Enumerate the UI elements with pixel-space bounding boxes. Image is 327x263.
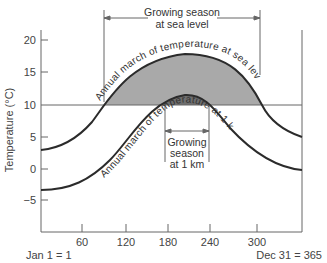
ytick-15: 15	[24, 66, 36, 78]
xtick-300: 300	[248, 236, 266, 248]
growing-season-sea-label-2: at sea level	[155, 18, 208, 30]
xtick-180: 180	[159, 236, 177, 248]
x-end-label: Dec 31 = 365	[256, 249, 322, 261]
ytick-neg5: −5	[23, 194, 36, 206]
xtick-120: 120	[117, 236, 135, 248]
ytick-20: 20	[24, 34, 36, 46]
xtick-60: 60	[76, 236, 88, 248]
growing-season-km-label-3: at 1 km	[170, 158, 205, 170]
xtick-240: 240	[201, 236, 219, 248]
y-axis-label: Temperature (°C)	[3, 88, 15, 172]
ytick-0: 0	[30, 163, 36, 175]
ytick-5: 5	[30, 131, 36, 143]
y-ticks	[41, 40, 48, 200]
x-ticks	[82, 224, 257, 232]
temperature-chart: Annual march of temperature at sea level…	[0, 0, 327, 263]
growing-season-sea-label-1: Growing season	[144, 6, 220, 18]
x-start-label: Jan 1 = 1	[26, 249, 72, 261]
ytick-10: 10	[24, 99, 36, 111]
